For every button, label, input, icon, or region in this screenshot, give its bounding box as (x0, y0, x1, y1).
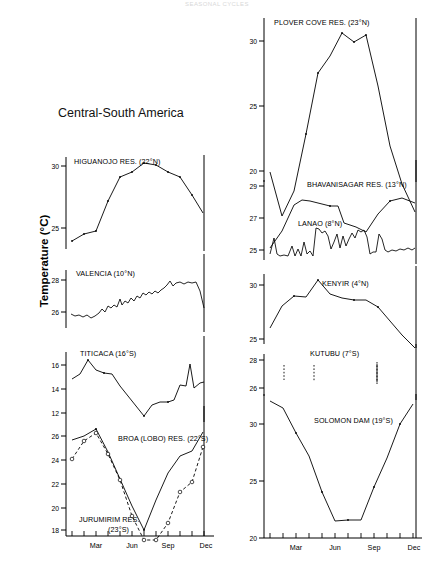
svg-text:30: 30 (249, 38, 257, 45)
panel-kenyir: 30 25 KENYIR (4°N) (252, 272, 427, 350)
svg-text:25: 25 (249, 336, 257, 343)
svg-text:Sep: Sep (162, 541, 175, 550)
svg-text:12: 12 (51, 410, 59, 417)
svg-text:18: 18 (51, 527, 59, 534)
series-label-valencia: VALENCIA (10°N) (76, 269, 135, 278)
svg-text:20: 20 (249, 168, 257, 175)
column-title-left: Central-South America (58, 106, 184, 120)
series-label-lanao: LANAO (8°N) (298, 219, 342, 228)
svg-text:26: 26 (51, 433, 59, 440)
svg-text:20: 20 (249, 535, 257, 542)
svg-text:26: 26 (51, 309, 59, 316)
svg-text:25: 25 (249, 478, 257, 485)
svg-text:Sep: Sep (368, 543, 381, 552)
svg-text:30: 30 (249, 421, 257, 428)
series-label-jurumirim-line2: (23°S) (108, 525, 129, 534)
svg-text:Mar: Mar (90, 541, 103, 550)
panel-higuanojo: 30 25 HIGUANOJO RES. (22°N) (56, 155, 212, 253)
svg-text:25: 25 (51, 225, 59, 232)
svg-text:22: 22 (51, 481, 59, 488)
svg-text:20: 20 (51, 505, 59, 512)
svg-text:26: 26 (249, 385, 257, 392)
panel-titicaca: 16 14 12 TITICACA (16°S) (56, 348, 212, 422)
svg-text:Dec: Dec (200, 541, 213, 550)
series-label-plover-cove: PLOVER COVE RES. (23°N) (274, 18, 369, 27)
svg-text:25: 25 (249, 247, 257, 254)
panel-solomon-dam: 30 25 20 Mar Jun Sep Dec SOLOM (252, 392, 427, 562)
svg-text:Mar: Mar (290, 543, 303, 552)
series-label-titicaca: TITICACA (16°S) (80, 349, 136, 358)
series-label-kenyir: KENYIR (4°N) (322, 279, 369, 288)
y-axis-label: Temperature (°C) (38, 191, 50, 331)
svg-text:16: 16 (51, 362, 59, 369)
svg-text:30: 30 (51, 163, 59, 170)
figure-canvas: SEASONAL CYCLES Temperature (°C) Central… (0, 0, 434, 566)
svg-text:25: 25 (249, 103, 257, 110)
svg-text:28: 28 (249, 357, 257, 364)
series-label-jurumirim-line1: JURUMIRIM RES. (79, 515, 140, 524)
svg-text:Jun: Jun (126, 541, 138, 550)
faint-header: SEASONAL CYCLES (0, 1, 434, 7)
svg-text:28: 28 (51, 277, 59, 284)
panel-plover-cove: 30 25 20 PLOVER COVE RES. (23°N) (252, 16, 427, 184)
series-label-higuanojo: HIGUANOJO RES. (22°N) (74, 157, 160, 166)
series-label-solomon-dam: SOLOMON DAM (19°S) (314, 416, 393, 425)
svg-text:24: 24 (51, 457, 59, 464)
svg-text:29: 29 (249, 183, 257, 190)
panel-bhavanisagar-lanao: 29 27 25 BHAVANISAGAR RES. (13°N) LANAO … (252, 176, 427, 268)
series-label-kutubu: KUTUBU (7°S) (310, 349, 359, 358)
panel-valencia: 28 26 VALENCIA (10°N) (56, 268, 212, 334)
series-label-bhavanisagar: BHAVANISAGAR RES. (13°N) (307, 180, 407, 189)
panel-broa-jurumirim: 26 24 22 20 18 Mar Jun Sep Dec (56, 418, 221, 553)
svg-text:14: 14 (51, 386, 59, 393)
svg-text:Jun: Jun (329, 543, 341, 552)
svg-text:Dec: Dec (408, 543, 421, 552)
svg-text:27: 27 (249, 215, 257, 222)
svg-text:30: 30 (249, 282, 257, 289)
series-label-broa: BROA (LOBO) RES. (22°S) (118, 434, 208, 443)
